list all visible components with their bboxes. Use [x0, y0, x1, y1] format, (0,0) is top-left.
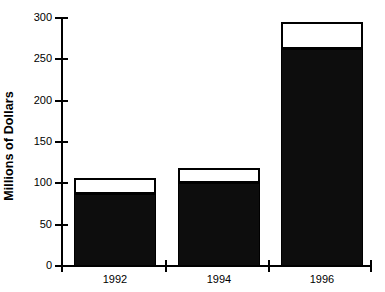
bar-1992[interactable] — [74, 178, 156, 266]
bar-1992-lower-segment[interactable] — [74, 194, 156, 266]
stacked-bar-chart: Millions of Dollars 050100150200250300 1… — [0, 0, 385, 292]
x-tick-label-1992: 1992 — [85, 273, 145, 285]
bar-1996-upper-segment[interactable] — [281, 22, 363, 49]
y-tick-label-150: 150 — [12, 136, 52, 147]
y-tick-label-300: 300 — [12, 12, 52, 23]
bar-1992-upper-segment[interactable] — [74, 178, 156, 194]
y-tick-label-200: 200 — [12, 95, 52, 106]
y-tick-label-100: 100 — [12, 177, 52, 188]
y-tick-label-0: 0 — [12, 260, 52, 271]
x-tick-label-1996: 1996 — [292, 273, 352, 285]
x-tick-3 — [370, 260, 372, 272]
bar-1996[interactable] — [281, 22, 363, 266]
bar-1994[interactable] — [178, 168, 260, 266]
bar-1994-upper-segment[interactable] — [178, 168, 260, 183]
x-tick-1 — [165, 260, 167, 272]
y-tick-label-50: 50 — [12, 219, 52, 230]
bar-1994-lower-segment[interactable] — [178, 183, 260, 266]
y-tick-label-250: 250 — [12, 53, 52, 64]
x-tick-label-1994: 1994 — [189, 273, 249, 285]
bar-1996-lower-segment[interactable] — [281, 49, 363, 266]
y-tick-50 — [55, 224, 68, 226]
x-tick-0 — [61, 260, 63, 272]
clipped-caption-remnant — [0, 0, 385, 2]
x-tick-2 — [268, 260, 270, 272]
y-tick-200 — [55, 100, 68, 102]
y-tick-300 — [55, 17, 68, 19]
y-tick-100 — [55, 182, 68, 184]
y-tick-250 — [55, 58, 68, 60]
y-tick-150 — [55, 141, 68, 143]
